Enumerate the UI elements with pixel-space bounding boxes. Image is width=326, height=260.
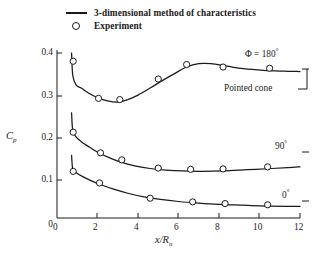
degree-sign-icon: ° (284, 139, 287, 147)
y-tick-label-0: 0 (26, 219, 53, 229)
data-point-marker (70, 129, 76, 135)
y-tick-label-0.4: 0.4 (26, 47, 53, 57)
series-lines (72, 53, 300, 206)
x-tick-label-2: 2 (93, 222, 98, 232)
data-point-marker (70, 168, 76, 174)
x-tick-label-8: 8 (215, 222, 220, 232)
data-point-marker (147, 195, 153, 201)
annotation-phi-0: 0° (282, 188, 289, 200)
pointed-cone-leader (298, 69, 309, 201)
data-point-marker (117, 97, 123, 103)
y-axis-title: Cp (6, 130, 17, 144)
axis-frame (57, 50, 300, 218)
annotation-phi-180: Φ = 180° (245, 47, 278, 59)
data-point-marker (188, 166, 194, 172)
data-point-marker (96, 180, 102, 186)
data-point-marker (155, 165, 161, 171)
y-tick-label-0.1: 0.1 (26, 174, 53, 184)
y-tick-label-0.3: 0.3 (26, 90, 53, 100)
degree-sign-icon: ° (276, 47, 279, 55)
x-tick-label-4: 4 (134, 222, 139, 232)
annotation-pointed-cone: Pointed cone (224, 83, 272, 93)
data-point-marker (220, 64, 226, 70)
y-axis-title-main: C (6, 130, 13, 141)
data-point-marker (119, 157, 125, 163)
data-point-marker (220, 166, 226, 172)
data-point-marker (265, 202, 271, 208)
x-axis-title: x/Rn (155, 234, 173, 248)
x-tick-label-6: 6 (174, 222, 179, 232)
data-point-marker (97, 150, 103, 156)
data-point-marker (190, 199, 196, 205)
figure-root: 3-dimensional method of characteristics … (0, 0, 326, 260)
annotation-phi-90-text: 90 (275, 141, 284, 151)
series-line-0 (72, 53, 300, 102)
data-point-marker (267, 65, 273, 71)
series-line-1 (72, 113, 300, 172)
annotation-phi-90: 90° (275, 139, 287, 151)
x-axis-title-main: x/R (155, 234, 169, 245)
x-axis-title-sub: n (169, 240, 173, 248)
degree-sign-icon: ° (287, 188, 290, 196)
x-tick-label-10: 10 (253, 222, 262, 232)
x-tick-label-12: 12 (294, 222, 303, 232)
data-point-marker (155, 76, 161, 82)
series-line-2 (72, 155, 300, 206)
x-tick-label-0: 0 (53, 222, 58, 232)
series-markers (70, 58, 273, 208)
data-point-marker (184, 61, 190, 67)
data-point-marker (222, 200, 228, 206)
data-point-marker (70, 58, 76, 64)
y-tick-label-0.2: 0.2 (26, 132, 53, 142)
y-axis-title-sub: p (13, 136, 17, 144)
annotation-phi-180-text: Φ = 180 (245, 49, 276, 59)
data-point-marker (95, 95, 101, 101)
data-point-marker (265, 164, 271, 170)
